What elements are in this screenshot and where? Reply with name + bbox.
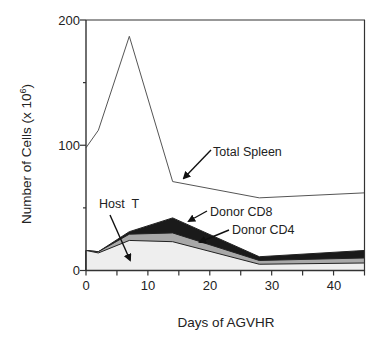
x-tick-label: 20 bbox=[203, 278, 217, 293]
annotation-donor-cd4: Donor CD4 bbox=[232, 223, 295, 237]
annotation-host-t: Host T bbox=[99, 197, 139, 211]
annotation-total-spleen: Total Spleen bbox=[213, 145, 282, 159]
annotation-donor-cd8: Donor CD8 bbox=[210, 205, 273, 219]
y-axis-title-base: Number of Cells (x 10 bbox=[19, 93, 34, 224]
y-axis-title-close: ) bbox=[19, 84, 34, 89]
chart: 0 10 20 30 40 0 100 200 Total Spleen Don… bbox=[0, 0, 381, 340]
chart-canvas: 0 10 20 30 40 0 100 200 Total Spleen Don… bbox=[0, 0, 381, 340]
y-tick-label: 200 bbox=[58, 13, 80, 28]
stacked-areas bbox=[86, 218, 365, 271]
y-tick-label: 100 bbox=[58, 138, 80, 153]
arrow-icon bbox=[189, 211, 207, 221]
y-tick-label: 0 bbox=[73, 263, 80, 278]
y-axis-title: Number of Cells (x 106) bbox=[18, 84, 34, 224]
arrow-icon bbox=[184, 150, 211, 178]
x-tick-label: 0 bbox=[82, 278, 89, 293]
x-tick-label: 40 bbox=[327, 278, 341, 293]
x-axis-title: Days of AGVHR bbox=[178, 315, 275, 330]
total-spleen-line bbox=[86, 36, 365, 198]
x-tick-label: 30 bbox=[265, 278, 279, 293]
x-tick-label: 10 bbox=[141, 278, 155, 293]
line-total-spleen bbox=[86, 36, 365, 198]
